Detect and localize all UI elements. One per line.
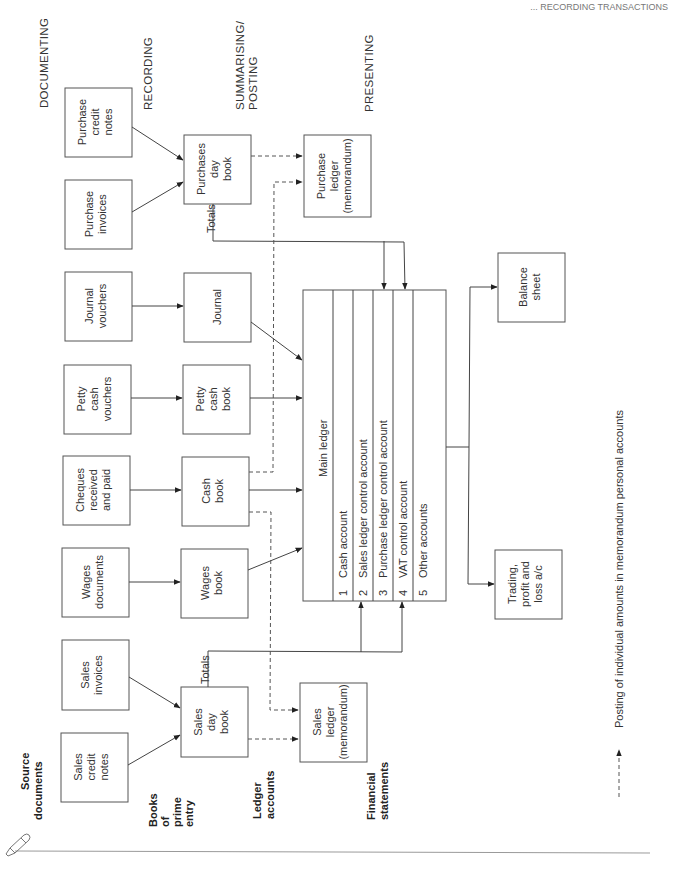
box-sales-invoices: Sales invoices [62, 640, 129, 710]
svg-text:Purchase: Purchase [315, 153, 327, 199]
stage-recording: RECORDING [142, 37, 154, 110]
box-sales-credit-notes: Sales credit notes [61, 733, 128, 802]
svg-text:documents: documents [32, 761, 44, 820]
svg-text:ledger: ledger [328, 160, 340, 191]
arrows-source-to-books [128, 127, 183, 765]
svg-text:book: book [218, 710, 230, 734]
svg-text:invoices: invoices [96, 194, 108, 234]
stage-summarising-2: POSTING [247, 56, 259, 110]
svg-text:Cash: Cash [200, 478, 212, 504]
stage-presenting: PRESENTING [363, 34, 375, 112]
svg-text:loss a/c: loss a/c [532, 565, 544, 603]
svg-text:Sales ledger control account: Sales ledger control account [357, 439, 369, 578]
svg-text:prime: prime [171, 797, 183, 827]
box-sales-ledger: Sales ledger (memorandum) [300, 683, 367, 762]
svg-text:Sales: Sales [72, 753, 84, 781]
box-purchase-credit-notes: Purchase credit notes [65, 88, 132, 157]
svg-text:(memorandum): (memorandum) [337, 684, 349, 759]
svg-text:1: 1 [337, 590, 349, 596]
box-journal: Journal [184, 273, 251, 342]
svg-text:ledger: ledger [324, 706, 336, 737]
svg-text:invoices: invoices [92, 655, 104, 695]
svg-text:VAT control account: VAT control account [397, 481, 409, 578]
svg-text:credit: credit [89, 109, 101, 136]
totals-label-sales: Totals [199, 655, 211, 684]
svg-text:cash: cash [207, 387, 219, 410]
box-purchases-day-book: Purchases day book [184, 135, 251, 204]
main-ledger: Main ledger 1 Cash account 2 Sales ledge… [303, 290, 446, 601]
svg-text:Purchase: Purchase [83, 191, 95, 237]
svg-text:accounts: accounts [264, 771, 276, 819]
svg-text:Wages: Wages [80, 565, 92, 599]
svg-text:documents: documents [93, 555, 105, 609]
stage-summarising-1: SUMMARISING/ [234, 20, 246, 110]
svg-text:Cash account: Cash account [337, 511, 349, 578]
arrows-books-to-main-ledger [248, 322, 302, 570]
svg-text:profit and: profit and [519, 561, 531, 607]
svg-text:3: 3 [377, 590, 389, 596]
svg-text:Wages: Wages [199, 566, 211, 600]
page-header-cut: ... RECORDING TRANSACTIONS [530, 2, 668, 12]
svg-text:Ledger: Ledger [251, 782, 263, 819]
svg-text:(memorandum): (memorandum) [341, 138, 353, 213]
totals-label-purchases: Totals [205, 204, 217, 233]
svg-text:statements: statements [378, 762, 390, 820]
svg-text:Purchase: Purchase [76, 99, 88, 145]
box-balance-sheet: Balance sheet [498, 253, 565, 322]
box-petty-cash-vouchers: Petty cash vouchers [64, 365, 131, 434]
box-wages-documents: Wages documents [62, 548, 129, 617]
svg-text:Other accounts: Other accounts [417, 503, 429, 578]
svg-text:cash: cash [88, 387, 100, 410]
svg-text:Journal: Journal [83, 288, 95, 324]
box-cheques-received-and-paid: Cheques received and paid [63, 456, 130, 525]
svg-text:4: 4 [397, 590, 409, 596]
svg-text:Source: Source [19, 753, 31, 790]
box-journal-vouchers: Journal vouchers [65, 272, 132, 341]
svg-text:Trading,: Trading, [506, 564, 518, 604]
arrows-to-statements [446, 287, 497, 584]
svg-text:book: book [212, 571, 224, 595]
svg-text:Journal: Journal [211, 289, 223, 325]
legend-text: Posting of individual amounts in memoran… [613, 410, 625, 728]
box-purchase-invoices: Purchase invoices [65, 180, 132, 249]
svg-text:of: of [159, 816, 171, 827]
svg-text:book: book [220, 387, 232, 411]
svg-text:vouchers: vouchers [101, 376, 113, 421]
svg-text:received: received [87, 469, 99, 511]
box-sales-day-book: Sales day book [181, 687, 248, 757]
main-ledger-title: Main ledger [317, 419, 329, 477]
svg-text:entry: entry [183, 799, 195, 827]
row-label-books-of-prime-entry: Books of prime entry [147, 793, 195, 827]
legend: Posting of individual amounts in memoran… [613, 410, 625, 797]
svg-text:Sales: Sales [79, 661, 91, 689]
svg-text:day: day [205, 713, 217, 731]
svg-text:Sales: Sales [192, 708, 204, 736]
svg-text:day: day [208, 160, 220, 178]
svg-text:2: 2 [357, 590, 369, 596]
svg-text:Cheques: Cheques [74, 467, 86, 512]
row-label-financial-statements: Financial statements [365, 762, 390, 820]
svg-text:book: book [221, 157, 233, 181]
box-purchase-ledger: Purchase ledger (memorandum) [304, 135, 371, 217]
svg-text:Purchases: Purchases [195, 143, 207, 195]
row-label-source-documents: Source documents [19, 753, 44, 820]
svg-text:Purchase ledger control accoun: Purchase ledger control account [377, 420, 389, 578]
svg-text:and paid: and paid [100, 469, 112, 511]
svg-text:notes: notes [98, 753, 110, 780]
svg-text:Financial: Financial [365, 772, 377, 820]
pen-icon [6, 834, 30, 856]
page-bottom-rule [15, 851, 650, 853]
svg-text:Balance: Balance [517, 267, 529, 307]
svg-text:Petty: Petty [75, 386, 87, 412]
box-trading-profit-loss: Trading, profit and loss a/c [495, 550, 562, 619]
stage-documenting: DOCUMENTING [38, 18, 50, 108]
svg-text:sheet: sheet [530, 274, 542, 301]
svg-text:Books: Books [147, 793, 159, 827]
svg-text:notes: notes [102, 108, 114, 135]
svg-text:Sales: Sales [311, 708, 323, 736]
svg-text:credit: credit [85, 754, 97, 781]
bookkeeping-flow-diagram: ... RECORDING TRANSACTIONS DOCUMENTING R… [0, 0, 673, 881]
svg-text:vouchers: vouchers [96, 283, 108, 328]
svg-text:book: book [213, 479, 225, 503]
row-label-ledger-accounts: Ledger accounts [251, 771, 276, 819]
